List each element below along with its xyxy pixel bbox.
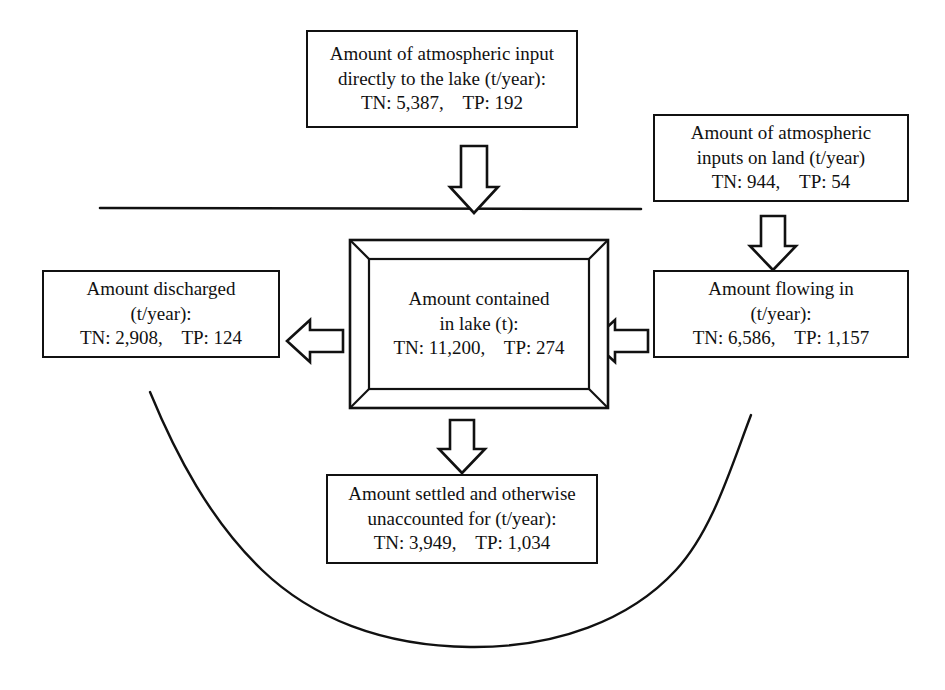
box-amount-flowing-in: Amount flowing in (t/year): TN: 6,586, T… <box>653 270 909 358</box>
box-line-values: TN: 3,949, TP: 1,034 <box>374 531 550 556</box>
lake-nutrient-flow-diagram: Amount of atmospheric input directly to … <box>0 0 945 690</box>
box-line-1: Amount of atmospheric <box>691 121 871 146</box>
box-contained-text: Amount contained in lake (t): TN: 11,200… <box>370 260 588 388</box>
box-line-1: Amount flowing in <box>708 277 854 302</box>
arrow-left-icon <box>287 320 343 362</box>
box-line-1: Amount contained <box>409 287 550 312</box>
box-line-1: Amount settled and otherwise <box>348 482 575 507</box>
box-line-values: TN: 6,586, TP: 1,157 <box>693 326 869 351</box>
box-line-2: inputs on land (t/year) <box>697 146 865 171</box>
arrow-down-icon <box>439 420 485 473</box>
box-atmospheric-input-to-lake: Amount of atmospheric input directly to … <box>306 30 578 128</box>
box-amount-contained-in-lake: Amount contained in lake (t): TN: 11,200… <box>348 238 610 410</box>
box-line-2: (t/year): <box>130 302 191 327</box>
box-line-2: directly to the lake (t/year): <box>338 67 546 92</box>
box-line-2: in lake (t): <box>439 312 518 337</box>
box-line-1: Amount discharged <box>87 277 236 302</box>
box-atmospheric-inputs-on-land: Amount of atmospheric inputs on land (t/… <box>653 114 909 202</box>
arrow-down-icon <box>450 146 498 213</box>
box-amount-settled-unaccounted: Amount settled and otherwise unaccounted… <box>326 474 598 564</box>
box-amount-discharged: Amount discharged (t/year): TN: 2,908, T… <box>42 270 280 358</box>
box-line-2: unaccounted for (t/year): <box>368 507 557 532</box>
box-line-values: TN: 11,200, TP: 274 <box>393 336 564 361</box>
arrow-down-icon <box>750 216 796 270</box>
box-line-values: TN: 2,908, TP: 124 <box>80 326 242 351</box>
box-line-values: TN: 944, TP: 54 <box>712 170 850 195</box>
water-surface-line <box>100 208 641 209</box>
box-line-values: TN: 5,387, TP: 192 <box>361 91 523 116</box>
box-line-1: Amount of atmospheric input <box>330 42 554 67</box>
box-line-2: (t/year): <box>750 302 811 327</box>
